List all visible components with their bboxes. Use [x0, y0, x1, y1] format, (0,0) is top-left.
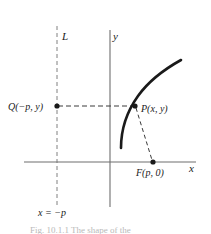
point-f-dot	[150, 159, 155, 164]
directrix-equation-label: x = −p	[37, 207, 66, 218]
point-q-label: Q(−p, y)	[8, 101, 44, 113]
figure-background	[0, 0, 211, 234]
point-f-label: F(p, 0)	[135, 167, 164, 179]
y-axis-label: y	[112, 30, 118, 42]
point-p-dot	[132, 103, 137, 108]
figure-container: L y x Q(−p, y) P(x, y) F(p, 0) x = −p Fi…	[0, 0, 211, 234]
point-q-dot	[54, 103, 59, 108]
point-p-label: P(x, y)	[140, 103, 168, 115]
directrix-label: L	[61, 30, 68, 42]
figure-caption: Fig. 10.1.1 The shape of the	[30, 225, 131, 234]
parabola-diagram: L y x Q(−p, y) P(x, y) F(p, 0) x = −p Fi…	[0, 0, 211, 234]
x-axis-label: x	[188, 162, 194, 174]
